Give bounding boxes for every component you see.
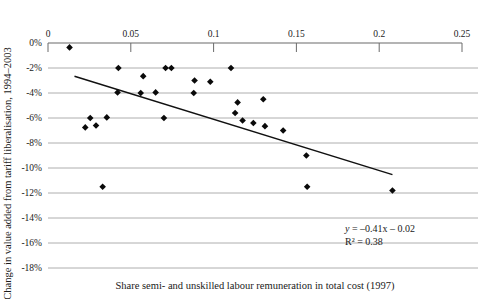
x-tick-label-3: 0.15 (288, 29, 305, 39)
y-tick-label-4: -8% (26, 138, 42, 148)
data-point-26 (304, 183, 311, 190)
data-point-5 (93, 122, 100, 129)
data-point-13 (168, 65, 175, 72)
y-tick-label-7: -14% (21, 213, 42, 223)
trendline-r2: R² = 0.38 (345, 236, 383, 247)
y-tick-label-8: -16% (21, 238, 42, 248)
x-tick-label-0: 0 (46, 29, 51, 39)
data-point-12 (162, 65, 169, 72)
data-point-22 (260, 96, 267, 103)
data-point-4 (87, 115, 94, 122)
data-point-17 (228, 65, 235, 72)
x-axis-title: Share semi- and unskilled labour remuner… (115, 280, 395, 292)
trendline-equation: y = –0.41x – 0.02 (344, 223, 415, 234)
data-point-25 (303, 152, 310, 159)
data-point-11 (161, 115, 168, 122)
chart-canvas: 00.050.10.150.20.250%-2%-4%-6%-8%-10%-12… (0, 0, 484, 299)
y-tick-label-5: -10% (21, 163, 42, 173)
data-point-19 (232, 110, 239, 117)
data-point-10 (152, 89, 159, 96)
data-point-16 (190, 90, 197, 97)
data-point-24 (280, 127, 287, 134)
y-tick-label-0: 0% (29, 38, 42, 48)
x-tick-label-4: 0.2 (373, 29, 385, 39)
x-tick-label-2: 0.1 (208, 29, 220, 39)
x-tick-label-5: 0.25 (454, 29, 471, 39)
data-point-14 (191, 77, 198, 84)
data-point-3 (103, 114, 110, 121)
y-axis-title: Change in value added from tariff libera… (2, 47, 13, 299)
data-point-1 (115, 65, 122, 72)
data-point-8 (140, 73, 147, 80)
y-tick-label-3: -6% (26, 113, 42, 123)
x-tick-label-1: 0.05 (122, 29, 139, 39)
y-tick-label-6: -12% (21, 188, 42, 198)
scatter-chart-figure: 00.050.10.150.20.250%-2%-4%-6%-8%-10%-12… (0, 0, 484, 299)
trend-line (74, 76, 392, 174)
data-point-6 (82, 124, 89, 131)
data-point-0 (66, 44, 73, 51)
y-tick-label-1: -2% (26, 63, 42, 73)
data-point-7 (99, 183, 106, 190)
y-tick-label-2: -4% (26, 88, 42, 98)
data-point-15 (207, 78, 214, 85)
data-point-23 (262, 123, 269, 130)
y-tick-label-9: -18% (21, 263, 42, 273)
data-point-21 (250, 120, 257, 127)
data-point-18 (234, 99, 241, 106)
